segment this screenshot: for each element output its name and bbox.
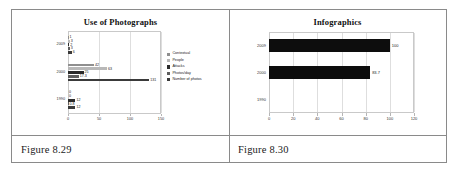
figure-caption-8-30: Figure 8.30 bbox=[229, 136, 446, 162]
legend-label: Photos/day bbox=[172, 72, 190, 76]
x-tick-label-150: 150 bbox=[153, 118, 169, 122]
x-tickmark-150 bbox=[161, 114, 162, 116]
x-tickmark-100 bbox=[130, 114, 131, 116]
y-tick-label-2009: 2009 bbox=[245, 44, 266, 48]
legend-label: Number of photos bbox=[172, 78, 201, 82]
y-tick-label-2000: 2000 bbox=[46, 71, 65, 75]
gridline-x-120 bbox=[414, 33, 415, 112]
chart-cell-use-of-photographs: Use of Photographs 050100150200913236200… bbox=[12, 10, 229, 138]
figure-table-frame: Use of Photographs 050100150200913236200… bbox=[11, 9, 447, 163]
bar-value-2000: 83.7 bbox=[372, 71, 380, 75]
x-tick-label-100: 100 bbox=[122, 118, 138, 122]
bar-2009-attacks bbox=[68, 43, 69, 46]
bar-value-2009-number-of-photos: 6 bbox=[73, 51, 75, 55]
y-tick-label-2000: 2000 bbox=[245, 71, 266, 75]
figure-caption-8-29: Figure 8.29 bbox=[12, 136, 229, 162]
chart-cell-infographics: Infographics 020406080100120200910020008… bbox=[229, 10, 446, 138]
legend-swatch-icon bbox=[167, 78, 170, 81]
bar-1990-number-of-photos bbox=[68, 106, 75, 109]
legend-label: Contextual bbox=[172, 52, 190, 56]
x-tickmark-0 bbox=[68, 114, 69, 116]
x-tick-label-0: 0 bbox=[260, 117, 278, 121]
bar-value-1990-number-of-photos: 12 bbox=[76, 106, 80, 110]
bar-2009-photos-day bbox=[68, 47, 70, 50]
x-tickmark-50 bbox=[99, 114, 100, 116]
y-tick-label-1990: 1990 bbox=[46, 98, 65, 102]
legend-label: People bbox=[172, 59, 183, 63]
bar-value-2009: 100 bbox=[392, 44, 399, 48]
x-tick-label-50: 50 bbox=[91, 118, 107, 122]
y-tick-label-2009: 2009 bbox=[46, 43, 65, 47]
chart-legend-left: ContextualPeopleAttacksPhotos/dayNumber … bbox=[167, 51, 202, 83]
bar-2009 bbox=[269, 39, 390, 52]
bar-value-2000-people: 63 bbox=[108, 68, 112, 72]
gridline-x-50 bbox=[99, 32, 100, 113]
bar-2000-number-of-photos bbox=[68, 79, 149, 82]
legend-swatch-icon bbox=[167, 59, 170, 62]
legend-label: Attacks bbox=[172, 65, 184, 69]
x-tick-label-120: 120 bbox=[405, 117, 423, 121]
bar-value-2000-number-of-photos: 131 bbox=[150, 79, 156, 83]
bar-2000-contextual bbox=[68, 64, 94, 67]
bar-2009-number-of-photos bbox=[68, 51, 72, 54]
y-tick-label-1990: 1990 bbox=[245, 98, 266, 102]
x-tick-label-60: 60 bbox=[333, 117, 351, 121]
x-tick-label-40: 40 bbox=[308, 117, 326, 121]
gridline-x-100 bbox=[390, 33, 391, 112]
legend-swatch-icon bbox=[167, 53, 170, 56]
bar-2000-photos-day bbox=[68, 75, 79, 78]
x-tick-label-100: 100 bbox=[381, 117, 399, 121]
figure-page: Use of Photographs 050100150200913236200… bbox=[0, 0, 458, 178]
legend-swatch-icon bbox=[167, 65, 170, 68]
chart-title-right: Infographics bbox=[229, 17, 446, 27]
gridline-x-100 bbox=[130, 32, 131, 113]
bar-value-1990-attacks: 12 bbox=[76, 99, 80, 103]
legend-swatch-icon bbox=[167, 72, 170, 75]
gridline-x-150 bbox=[161, 32, 162, 113]
bar-2009-contextual bbox=[68, 36, 69, 39]
x-tick-label-20: 20 bbox=[284, 117, 302, 121]
chart-title-left: Use of Photographs bbox=[12, 17, 229, 27]
x-tick-label-80: 80 bbox=[357, 117, 375, 121]
legend-item-number-of-photos: Number of photos bbox=[167, 77, 202, 83]
x-tick-label-0: 0 bbox=[60, 118, 76, 122]
bar-2000 bbox=[269, 66, 370, 79]
